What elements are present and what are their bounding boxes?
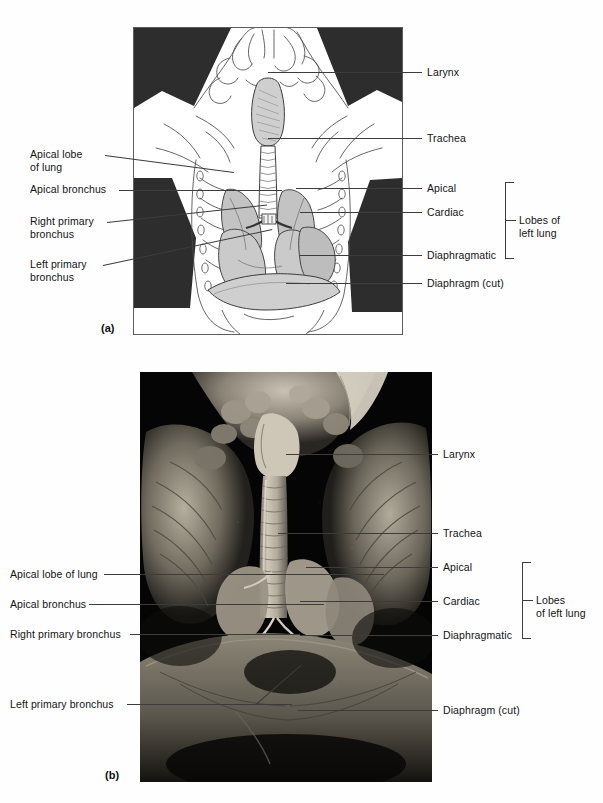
panel-b-leader-apical-bronchus: [89, 604, 324, 605]
figure-page: Apical lobe of lung Apical bronchus Righ…: [0, 0, 603, 803]
panel-b-label-diaphragmatic: Diaphragmatic: [443, 629, 512, 642]
panel-a-illustration: [133, 27, 403, 335]
panel-b-leader-trachea: [278, 533, 438, 534]
panel-b-label-cardiac: Cardiac: [443, 595, 480, 608]
panel-b-leader-right-primary-bronchus: [130, 634, 300, 635]
panel-a-leader-larynx: [268, 72, 422, 73]
panel-b-label-diaphragm-cut: Diaphragm (cut): [443, 704, 520, 717]
panel-a-label-apical: Apical: [427, 182, 456, 195]
panel-a-label-larynx: Larynx: [427, 66, 459, 79]
panel-a-label-apical-bronchus: Apical bronchus: [30, 183, 130, 196]
panel-b-leader-diaphragmatic: [300, 635, 438, 636]
panel-a-leader-cardiac: [300, 212, 422, 213]
panel-b-letter: (b): [105, 769, 119, 781]
panel-b-label-apical-lobe-of-lung: Apical lobe of lung: [10, 568, 98, 581]
panel-b-leader-apical: [306, 567, 438, 568]
panel-a-leader-diaphragm-cut: [286, 283, 422, 284]
panel-a-label-diaphragmatic: Diaphragmatic: [427, 249, 496, 262]
panel-b-label-lobes-of-left-lung: Lobes of left lung: [536, 594, 603, 619]
panel-a-leader-trachea: [268, 138, 422, 139]
panel-b-label-apical-bronchus: Apical bronchus: [10, 598, 86, 611]
panel-b-leader-cardiac: [300, 601, 438, 602]
panel-a-leader-apical: [296, 188, 422, 189]
panel-b-label-right-primary-bronchus: Right primary bronchus: [10, 628, 121, 641]
panel-a-letter: (a): [101, 322, 114, 334]
panel-b-leader-larynx: [286, 454, 438, 455]
panel-b-label-trachea: Trachea: [443, 527, 482, 540]
panel-a-label-trachea: Trachea: [427, 132, 466, 145]
panel-b-lobes-bracket-tick: [522, 600, 533, 601]
panel-b-photograph: [140, 372, 432, 782]
panel-a-label-cardiac: Cardiac: [427, 206, 464, 219]
panel-a-label-right-primary-bronchus: Right primary bronchus: [30, 215, 130, 240]
panel-b-leader-apical-lobe-of-lung: [104, 574, 384, 575]
panel-a-leader-diaphragmatic: [300, 255, 422, 256]
panel-a-leader-apical-bronchus: [119, 190, 282, 191]
panel-b-label-left-primary-bronchus: Left primary bronchus: [10, 698, 114, 711]
panel-b-label-larynx: Larynx: [443, 448, 475, 461]
panel-b-leader-left-primary-bronchus: [127, 704, 292, 705]
panel-a-label-lobes-of-left-lung: Lobes of left lung: [519, 214, 599, 239]
panel-a-lobes-bracket-tick: [505, 220, 516, 221]
panel-b-label-apical: Apical: [443, 561, 472, 574]
panel-a-label-diaphragm-cut: Diaphragm (cut): [427, 277, 504, 290]
panel-b-leader-diaphragm-cut: [298, 710, 438, 711]
panel-a-label-apical-lobe-of-lung: Apical lobe of lung: [30, 148, 130, 173]
